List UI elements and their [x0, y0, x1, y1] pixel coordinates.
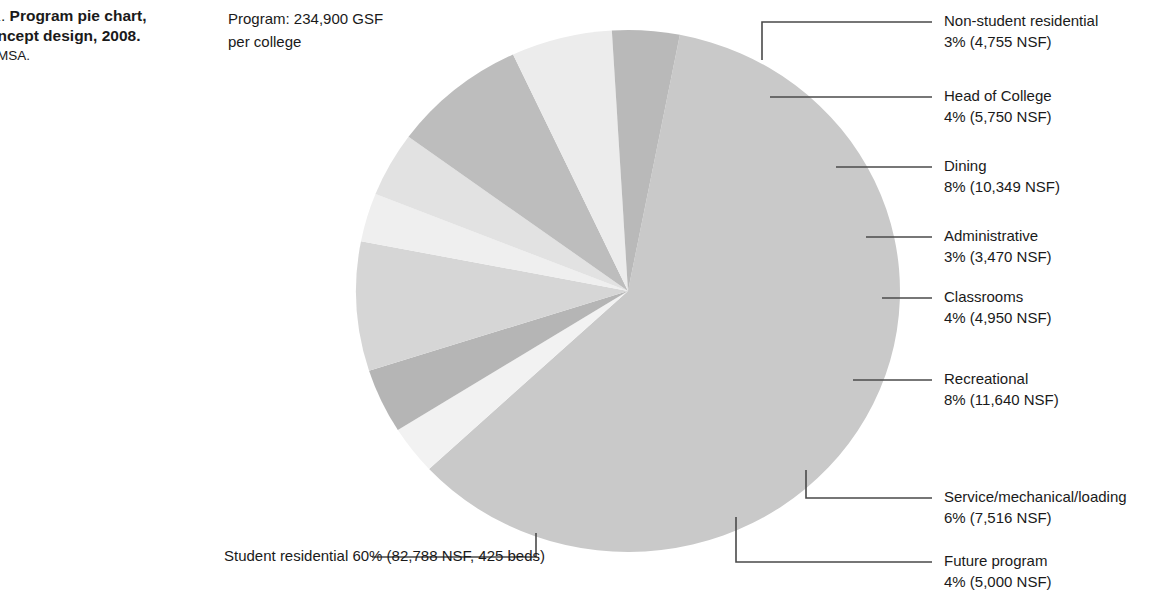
callout-value: 60% (82,788 NSF, 425 beds)	[352, 547, 545, 564]
callout-label: Service/mechanical/loading	[944, 486, 1127, 507]
callout-non-student-residential: Non-student residential 3% (4,755 NSF)	[944, 10, 1098, 53]
callout-student-residential: Student residential 60% (82,788 NSF, 425…	[224, 545, 545, 566]
callout-service-mechanical-loading: Service/mechanical/loading 6% (7,516 NSF…	[944, 486, 1127, 529]
callout-value: 3% (3,470 NSF)	[944, 246, 1052, 267]
callout-value: 4% (5,000 NSF)	[944, 571, 1052, 592]
callout-classrooms: Classrooms 4% (4,950 NSF)	[944, 286, 1052, 329]
callout-value: 4% (5,750 NSF)	[944, 106, 1052, 127]
callout-future-program: Future program 4% (5,000 NSF)	[944, 550, 1052, 593]
callout-label: Student residential	[224, 547, 348, 564]
callout-label: Future program	[944, 550, 1052, 571]
pie-slice-group	[356, 30, 900, 552]
callout-label: Classrooms	[944, 286, 1052, 307]
leader-line-service	[806, 470, 932, 498]
callout-recreational: Recreational 8% (11,640 NSF)	[944, 368, 1059, 411]
callout-label: Dining	[944, 155, 1060, 176]
figure-root: .1. Program pie chart, oncept design, 20…	[0, 0, 1173, 593]
leader-line-non-student-residential	[762, 22, 932, 60]
callout-head-of-college: Head of College 4% (5,750 NSF)	[944, 85, 1052, 128]
callout-dining: Dining 8% (10,349 NSF)	[944, 155, 1060, 198]
callout-label: Recreational	[944, 368, 1059, 389]
callout-value: 4% (4,950 NSF)	[944, 307, 1052, 328]
callout-value: 3% (4,755 NSF)	[944, 31, 1098, 52]
callout-value: 8% (11,640 NSF)	[944, 389, 1059, 410]
callout-administrative: Administrative 3% (3,470 NSF)	[944, 225, 1052, 268]
callout-value: 6% (7,516 NSF)	[944, 507, 1127, 528]
callout-label: Non-student residential	[944, 10, 1098, 31]
callout-label: Head of College	[944, 85, 1052, 106]
callout-value: 8% (10,349 NSF)	[944, 176, 1060, 197]
callout-label: Administrative	[944, 225, 1052, 246]
leader-line-future-program	[736, 517, 932, 562]
